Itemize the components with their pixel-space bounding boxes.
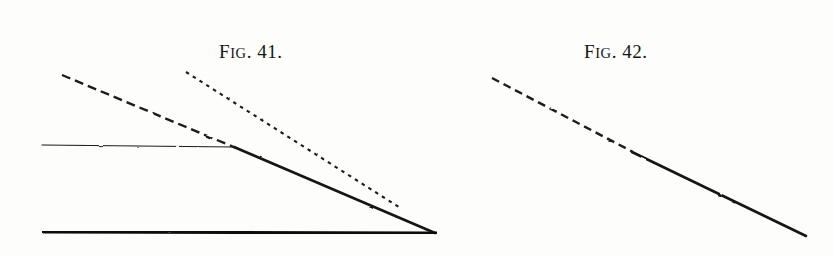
figure-41-inclined-face — [234, 147, 435, 233]
figure-42-dashed-ray — [492, 78, 633, 152]
figure-42-drawing — [477, 78, 808, 238]
figure-41-base-edge — [42, 232, 437, 233]
figure-41-drawing — [42, 72, 437, 233]
figures-drawing — [0, 0, 834, 256]
figure-41-top-edge — [42, 145, 234, 147]
figure-41-dashed-ray-upper — [62, 75, 236, 148]
figure-42-inclined-face — [632, 152, 806, 236]
figure-plate: FIG. 41. FIG. 42. — [0, 0, 834, 256]
